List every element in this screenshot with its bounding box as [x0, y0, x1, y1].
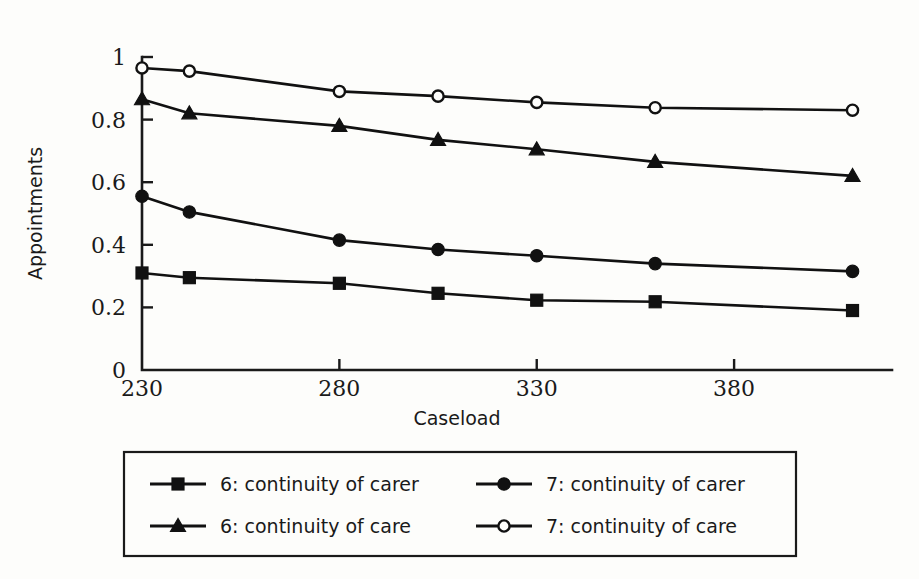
marker-filled-square: [432, 287, 444, 299]
marker-open-circle: [650, 102, 661, 113]
marker-open-circle: [531, 97, 542, 108]
marker-filled-square: [531, 294, 543, 306]
y-tick-label: 0.8: [91, 108, 126, 133]
series-1: [136, 267, 859, 317]
marker-open-circle: [498, 520, 509, 531]
marker-filled-circle: [498, 478, 510, 490]
x-axis-title: Caseload: [413, 407, 500, 429]
axis-lines: [142, 57, 892, 370]
marker-filled-circle: [136, 190, 148, 202]
y-tick-label: 0.2: [91, 295, 126, 320]
legend-label: 7: continuity of carer: [546, 473, 745, 495]
legend-box: [124, 452, 796, 556]
marker-filled-square: [847, 305, 859, 317]
marker-filled-circle: [649, 257, 661, 269]
series-line: [142, 273, 853, 311]
series-4: [136, 62, 858, 115]
legend-label: 7: continuity of care: [546, 515, 737, 537]
marker-filled-circle: [531, 250, 543, 262]
legend-label: 6: continuity of care: [220, 515, 411, 537]
line-chart: 00.20.40.60.81230280330380CaseloadAppoin…: [0, 0, 919, 579]
x-tick-label: 230: [121, 376, 163, 401]
figure-container: 00.20.40.60.81230280330380CaseloadAppoin…: [0, 0, 919, 579]
marker-filled-circle: [846, 265, 858, 277]
y-tick-label: 0.4: [91, 233, 126, 258]
marker-filled-square: [649, 296, 661, 308]
series-line: [142, 68, 853, 110]
legend-label: 6: continuity of carer: [220, 473, 419, 495]
x-tick-label: 330: [516, 376, 558, 401]
x-tick-label: 280: [318, 376, 360, 401]
marker-open-circle: [136, 62, 147, 73]
y-tick-label: 0.6: [91, 170, 126, 195]
marker-open-circle: [847, 105, 858, 116]
y-axis-title: Appointments: [24, 147, 46, 280]
series-2: [135, 92, 861, 182]
y-tick-label: 1: [112, 45, 126, 70]
legend: 6: continuity of carer7: continuity of c…: [124, 452, 796, 556]
series-3: [136, 190, 859, 278]
marker-filled-square: [183, 272, 195, 284]
marker-open-circle: [334, 86, 345, 97]
marker-filled-square: [333, 277, 345, 289]
marker-filled-square: [172, 478, 184, 490]
marker-filled-circle: [432, 243, 444, 255]
marker-open-circle: [432, 91, 443, 102]
marker-filled-circle: [333, 234, 345, 246]
series-line: [142, 196, 853, 271]
marker-open-circle: [184, 65, 195, 76]
marker-filled-square: [136, 267, 148, 279]
x-tick-label: 380: [713, 376, 755, 401]
marker-filled-circle: [183, 206, 195, 218]
series-line: [142, 99, 853, 176]
marker-filled-triangle: [135, 92, 150, 105]
